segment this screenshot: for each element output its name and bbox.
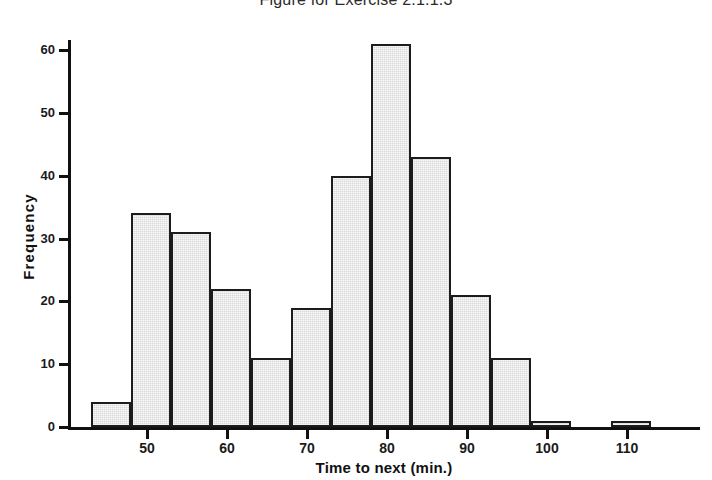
histogram-bar [331,176,371,427]
histogram-bar [171,232,211,427]
histogram-bar [531,421,571,427]
histogram-figure: Figure for Exercise 2.1.1.3 010203040506… [0,0,712,480]
histogram-bar [131,213,171,427]
histogram-bar [291,308,331,427]
histogram-bar [451,295,491,427]
histogram-bar [491,358,531,427]
y-axis-title: Frequency [20,137,37,337]
plot-area: 0102030405060 5060708090100110 Time to n… [0,0,712,480]
histogram-bar [91,402,131,427]
histogram-bar [371,44,411,427]
bar-series [0,0,712,480]
histogram-bar [251,358,291,427]
histogram-bar [611,421,651,427]
histogram-bar [411,157,451,427]
x-axis-title: Time to next (min.) [68,459,700,476]
histogram-bar [211,289,251,427]
